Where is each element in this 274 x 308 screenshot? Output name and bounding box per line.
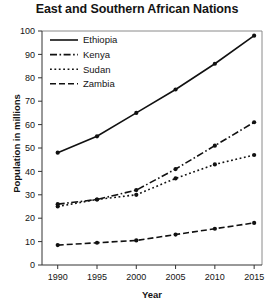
data-point — [56, 204, 60, 208]
data-point — [173, 232, 177, 236]
series-line-kenya — [58, 122, 254, 204]
data-point — [134, 188, 138, 192]
data-point — [56, 243, 60, 247]
data-point — [173, 87, 177, 91]
y-tick-label: 90 — [25, 50, 35, 60]
data-point — [252, 34, 256, 38]
y-axis-ticks: 0102030405060708090100 — [20, 26, 42, 270]
series-line-sudan — [58, 155, 254, 206]
data-point — [173, 167, 177, 171]
x-tick-label: 1995 — [87, 272, 107, 282]
legend-label-ethiopia: Ethiopia — [83, 34, 118, 45]
chart-container: East and Southern African Nations Popula… — [0, 0, 274, 308]
data-point — [134, 238, 138, 242]
plot-area: 0102030405060708090100 19901995200020052… — [0, 0, 274, 308]
legend-label-zambia: Zambia — [83, 78, 115, 89]
data-point — [134, 193, 138, 197]
y-tick-label: 40 — [25, 167, 35, 177]
x-tick-label: 2005 — [166, 272, 186, 282]
data-point — [252, 153, 256, 157]
x-tick-label: 1990 — [48, 272, 68, 282]
legend-label-sudan: Sudan — [83, 64, 110, 75]
data-point — [95, 197, 99, 201]
legend-label-kenya: Kenya — [83, 49, 111, 60]
data-point — [95, 241, 99, 245]
data-point — [134, 111, 138, 115]
y-tick-label: 10 — [25, 237, 35, 247]
chart-legend: EthiopiaKenyaSudanZambia — [50, 34, 118, 89]
data-point — [213, 62, 217, 66]
x-tick-label: 2015 — [244, 272, 264, 282]
data-point — [56, 151, 60, 155]
data-point — [95, 134, 99, 138]
y-tick-label: 0 — [30, 260, 35, 270]
x-tick-label: 2010 — [205, 272, 225, 282]
data-point — [213, 144, 217, 148]
data-point — [213, 227, 217, 231]
y-tick-label: 80 — [25, 73, 35, 83]
data-point — [252, 120, 256, 124]
y-tick-label: 50 — [25, 143, 35, 153]
plot-frame — [42, 31, 262, 265]
data-point — [252, 221, 256, 225]
data-point — [173, 176, 177, 180]
y-tick-label: 100 — [20, 26, 35, 36]
y-tick-label: 20 — [25, 213, 35, 223]
x-axis-ticks: 199019952000200520102015 — [48, 265, 264, 282]
data-point — [213, 162, 217, 166]
y-tick-label: 30 — [25, 190, 35, 200]
y-tick-label: 70 — [25, 96, 35, 106]
series-line-zambia — [58, 223, 254, 245]
y-tick-label: 60 — [25, 120, 35, 130]
x-tick-label: 2000 — [126, 272, 146, 282]
